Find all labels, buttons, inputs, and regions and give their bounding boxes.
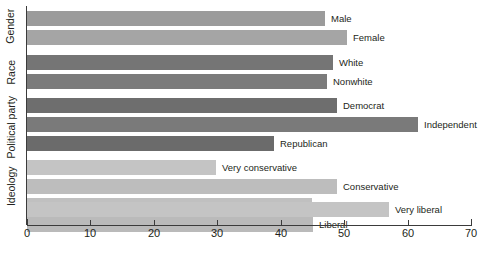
group-label-ideology-text: Ideology xyxy=(6,166,17,206)
bar-row: Very conservative xyxy=(27,160,471,175)
x-tick-label-10: 10 xyxy=(84,228,96,239)
x-tick-label-50: 50 xyxy=(338,228,350,239)
bar-row: Democrat xyxy=(27,98,471,113)
x-tick xyxy=(90,220,91,225)
bar-row: Independent xyxy=(27,117,471,132)
bar-label-independent: Independent xyxy=(424,120,477,130)
bar-conservative xyxy=(27,179,337,194)
group-label-race: Race xyxy=(0,52,22,92)
bar-label-republican: Republican xyxy=(280,139,328,149)
plot-area: Male Female White Nonwhite Democrat Inde… xyxy=(27,6,471,225)
bar-row: Nonwhite xyxy=(27,74,471,89)
bar-very-liberal xyxy=(27,202,389,217)
bar-label-very-conservative: Very conservative xyxy=(222,163,297,173)
group-axis: Gender Race Political party Ideology xyxy=(0,0,27,225)
bar-label-democrat: Democrat xyxy=(343,101,384,111)
x-tick-label-70: 70 xyxy=(465,228,477,239)
bar-very-conservative xyxy=(27,160,216,175)
value-axis-line xyxy=(27,225,471,226)
x-tick-label-0: 0 xyxy=(24,228,30,239)
group-label-gender-text: Gender xyxy=(6,8,17,43)
bar-row: Male xyxy=(27,11,471,26)
bar-female xyxy=(27,30,347,45)
bar-label-nonwhite: Nonwhite xyxy=(333,77,373,87)
bar-democrat xyxy=(27,98,337,113)
bar-row: White xyxy=(27,55,471,70)
x-tick-label-60: 60 xyxy=(402,228,414,239)
group-label-race-text: Race xyxy=(6,60,17,85)
x-tick xyxy=(281,220,282,225)
bar-male xyxy=(27,11,325,26)
bar-label-very-liberal: Very liberal xyxy=(395,205,442,215)
bar-row: Conservative xyxy=(27,179,471,194)
bar-label-female: Female xyxy=(353,33,385,43)
bar-label-male: Male xyxy=(331,14,352,24)
bar-republican xyxy=(27,136,274,151)
x-tick-label-40: 40 xyxy=(275,228,287,239)
horizontal-bar-chart: Gender Race Political party Ideology Mal… xyxy=(0,0,490,258)
x-tick xyxy=(154,220,155,225)
x-tick xyxy=(408,220,409,225)
x-tick xyxy=(217,220,218,225)
x-tick-label-20: 20 xyxy=(148,228,160,239)
bar-label-conservative: Conservative xyxy=(343,182,398,192)
bar-row: Republican xyxy=(27,136,471,151)
x-tick xyxy=(344,220,345,225)
value-axis-end-cap xyxy=(471,219,472,226)
group-label-gender: Gender xyxy=(0,6,22,46)
bar-nonwhite xyxy=(27,74,327,89)
value-axis-start-cap xyxy=(27,219,28,226)
bar-white xyxy=(27,55,333,70)
bar-label-white: White xyxy=(339,58,363,68)
group-label-ideology: Ideology xyxy=(0,146,22,226)
x-tick-label-30: 30 xyxy=(211,228,223,239)
bar-row: Very liberal xyxy=(27,202,471,217)
bar-independent xyxy=(27,117,418,132)
bar-row: Female xyxy=(27,30,471,45)
